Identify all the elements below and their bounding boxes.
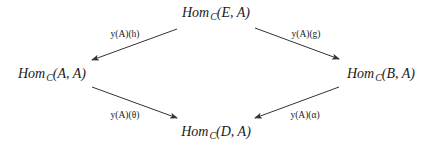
hom-text: Hom [18, 66, 45, 81]
label-y-a-h: y(A)(h) [110, 29, 139, 39]
node-hom-e-a: HomC(E, A) [182, 5, 250, 21]
category-subscript: C [210, 11, 217, 22]
hom-text: Hom [182, 5, 209, 20]
category-subscript: C [375, 72, 382, 83]
label-y-a-g: y(A)(g) [291, 29, 320, 39]
node-hom-d-a: HomC(D, A) [181, 124, 251, 140]
hom-args: (D, A) [216, 124, 251, 139]
category-subscript: C [209, 130, 216, 141]
label-y-a-theta: y(A)(θ) [111, 110, 140, 120]
hom-text: Hom [347, 66, 374, 81]
hom-args: (B, A) [382, 66, 415, 81]
label-y-a-alpha: y(A)(α) [290, 110, 319, 120]
hom-args: (E, A) [217, 5, 250, 20]
hom-args: (A, A) [53, 66, 86, 81]
category-subscript: C [46, 72, 53, 83]
node-hom-a-a: HomC(A, A) [18, 66, 86, 82]
hom-text: Hom [181, 124, 208, 139]
node-hom-b-a: HomC(B, A) [347, 66, 415, 82]
